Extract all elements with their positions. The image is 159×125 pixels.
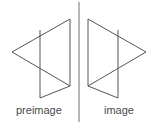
preimage-shape xyxy=(12,19,70,98)
preimage-label: preimage xyxy=(16,104,62,117)
reflection-diagram: preimage image xyxy=(0,0,159,125)
preimage-upper-triangle xyxy=(12,19,70,86)
preimage-lower-triangle-edge xyxy=(40,86,70,98)
image-lower-triangle-edge xyxy=(88,86,118,98)
image-shape xyxy=(88,19,146,98)
image-upper-triangle xyxy=(88,19,146,86)
image-label: image xyxy=(104,104,134,117)
